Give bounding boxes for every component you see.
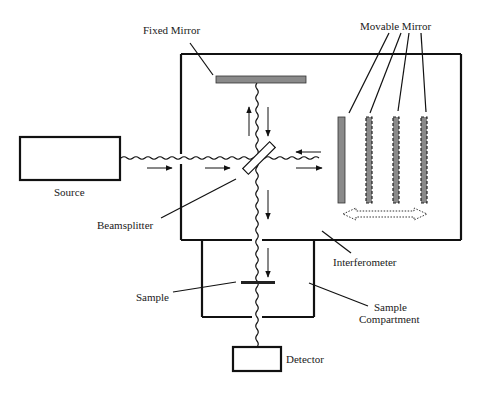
interferometer-label: Interferometer — [333, 256, 397, 268]
light-beams — [121, 83, 319, 347]
movable-mirror — [338, 117, 427, 203]
beamsplitter-label: Beamsplitter — [97, 219, 154, 231]
movable-mirror-position-1 — [338, 117, 345, 203]
beamsplitter-leader — [161, 179, 236, 218]
movable-mirror-position-4 — [421, 117, 427, 203]
detector-label: Detector — [286, 353, 324, 365]
sample-compartment-label: Sample Compartment — [359, 301, 420, 325]
movable-mirror-position-2 — [366, 117, 372, 203]
sample — [241, 281, 275, 284]
direction-arrows — [147, 107, 322, 277]
sample-label: Sample — [136, 291, 169, 303]
mirror-travel-double-arrow-icon — [343, 208, 427, 220]
horizontal-beam — [121, 157, 319, 160]
movable-mirror-label: Movable Mirror — [360, 20, 432, 32]
fixed-mirror — [216, 76, 306, 83]
sample-compartment-label-line2: Compartment — [359, 313, 420, 325]
fixed-mirror-leader — [190, 43, 213, 75]
fixed-mirror-label: Fixed Mirror — [143, 24, 200, 36]
sample-compartment-leader — [309, 283, 368, 306]
vertical-beam — [256, 83, 259, 347]
source-box — [20, 137, 120, 180]
ftir-interferometer-diagram: Source Detector — [0, 0, 482, 394]
source-label: Source — [54, 186, 85, 198]
detector-box — [233, 347, 281, 371]
sample-compartment-label-line1: Sample — [374, 301, 407, 313]
sample-leader — [173, 282, 236, 292]
movable-mirror-position-3 — [393, 117, 399, 203]
movable-mirror-leaders — [349, 33, 426, 113]
interferometer-leader — [322, 231, 351, 253]
